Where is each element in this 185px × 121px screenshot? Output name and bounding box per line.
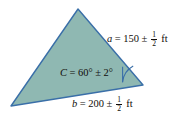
side-b-variable: b: [72, 99, 77, 110]
angle-c-value: 60°: [78, 68, 93, 79]
side-a-tolerance-numerator: 1: [151, 31, 157, 39]
angle-c-tolerance: 2°: [103, 68, 112, 79]
side-a-value: 150: [123, 34, 139, 45]
angle-c-variable: C: [60, 68, 67, 79]
triangle-shape: [11, 9, 143, 106]
side-a-unit: ft: [161, 34, 167, 45]
side-b-equals: =: [80, 99, 86, 110]
side-b-tolerance-fraction: 1 2: [116, 96, 122, 113]
label-side-b: b = 200 ± 1 2 ft: [72, 96, 133, 113]
side-b-plusminus: ±: [106, 99, 112, 110]
side-a-plusminus: ±: [141, 34, 147, 45]
side-a-equals: =: [115, 34, 121, 45]
side-b-value: 200: [88, 99, 104, 110]
label-angle-c: C = 60° ± 2°: [60, 68, 113, 79]
geometry-figure: a = 150 ± 1 2 ft C = 60° ± 2° b = 200 ± …: [0, 0, 185, 121]
side-b-unit: ft: [126, 99, 132, 110]
side-a-variable: a: [107, 34, 112, 45]
label-side-a: a = 150 ± 1 2 ft: [107, 31, 168, 48]
angle-c-equals: =: [70, 68, 76, 79]
side-a-tolerance-fraction: 1 2: [151, 31, 157, 48]
side-a-tolerance-denominator: 2: [151, 40, 157, 48]
angle-c-plusminus: ±: [95, 68, 101, 79]
side-b-tolerance-numerator: 1: [116, 96, 122, 104]
side-b-tolerance-denominator: 2: [116, 105, 122, 113]
